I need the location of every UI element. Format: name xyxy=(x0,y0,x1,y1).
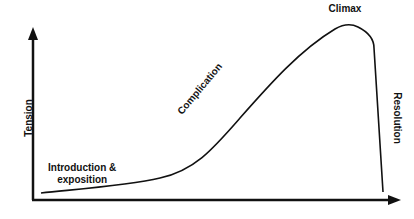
x-axis-arrow-icon xyxy=(388,195,401,205)
stage-label-introduction: Introduction & exposition xyxy=(48,162,116,186)
y-axis-label: Tension xyxy=(23,99,35,137)
introduction-line-2: exposition xyxy=(48,174,116,186)
stage-label-climax: Climax xyxy=(329,3,362,15)
stage-label-resolution: Resolution xyxy=(391,92,403,144)
introduction-line-1: Introduction & xyxy=(48,162,116,174)
tension-curve-diagram xyxy=(0,0,414,219)
y-axis-arrow-icon xyxy=(28,27,38,40)
